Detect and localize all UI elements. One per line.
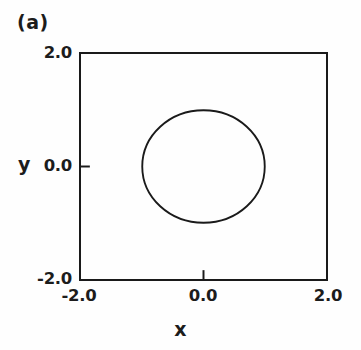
y-axis-title: y: [18, 155, 30, 174]
panel-label: (a): [17, 13, 49, 32]
y-tick-label-0.0: 0.0: [44, 158, 72, 175]
x-axis-title: x: [0, 320, 361, 339]
data-curve-closed-orbit: [142, 110, 265, 223]
y-tick-label-2.0: 2.0: [44, 45, 72, 62]
tick-marks-group: [81, 167, 204, 280]
x-tick-label--2.0: -2.0: [47, 288, 111, 305]
x-tick-label-0.0: 0.0: [171, 288, 235, 305]
plot-canvas: [81, 54, 326, 279]
x-tick-label-2.0: 2.0: [296, 288, 360, 305]
data-series-group: [142, 110, 265, 223]
figure-panel: (a) y 2.0 0.0 -2.0 -2.0 0.0 2.0 x: [0, 0, 361, 350]
plot-frame: [79, 52, 328, 281]
